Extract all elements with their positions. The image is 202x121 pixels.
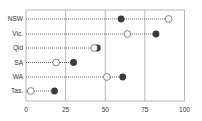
open-dot — [91, 45, 98, 52]
x-tick-label: 0 — [24, 106, 28, 113]
category-label: Vic. — [12, 30, 23, 37]
dot-row: Vic. — [12, 30, 159, 37]
filled-dot — [51, 88, 58, 95]
dot-row: WA — [13, 73, 126, 80]
dot-row: SA — [14, 59, 77, 66]
category-label: Qld — [13, 44, 24, 52]
x-tick-label: 25 — [62, 106, 70, 113]
filled-dot — [153, 31, 160, 38]
dot-plot-chart: NSWVic.QldSAWATas. 0255075100 — [0, 0, 202, 121]
category-label: Tas. — [11, 87, 23, 94]
category-label: WA — [13, 73, 24, 80]
category-label: SA — [14, 59, 23, 66]
data-rows: NSWVic.QldSAWATas. — [8, 15, 172, 94]
grid-lines — [66, 10, 145, 101]
filled-dot — [118, 16, 125, 23]
x-tick-label: 50 — [102, 106, 110, 113]
open-dot — [53, 59, 60, 66]
dot-row: Tas. — [11, 87, 58, 94]
open-dot — [165, 16, 172, 23]
x-tick-label: 75 — [141, 106, 149, 113]
open-dot — [124, 31, 131, 38]
filled-dot — [70, 59, 77, 66]
dot-row: NSW — [8, 15, 172, 22]
x-tick-label: 100 — [179, 106, 190, 113]
open-dot — [27, 88, 34, 95]
filled-dot — [119, 74, 126, 81]
category-label: NSW — [8, 15, 24, 22]
open-dot — [103, 74, 110, 81]
x-axis-ticks: 0255075100 — [24, 106, 190, 113]
